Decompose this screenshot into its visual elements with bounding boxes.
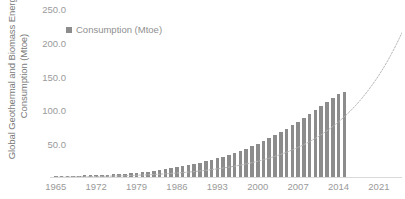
bar-2000 — [256, 144, 260, 177]
bar-1994 — [221, 157, 225, 177]
x-axis-tick-2000: 2000 — [247, 181, 268, 192]
bar-1995 — [227, 155, 231, 177]
bar-1996 — [233, 153, 237, 177]
bar-2011 — [319, 106, 323, 177]
x-axis-tick-1965: 1965 — [45, 181, 66, 192]
bar-2009 — [308, 114, 312, 177]
chart-container: Global Geothermal and Biomass Energy Con… — [0, 0, 405, 199]
chart-legend: Consumption (Mtoe) — [66, 24, 162, 35]
bar-1992 — [210, 160, 214, 177]
x-axis-tick-labels: 196519721979198619932000200720142021 — [50, 181, 402, 195]
bar-2006 — [291, 125, 295, 177]
bar-1999 — [250, 146, 254, 177]
bar-1997 — [239, 151, 243, 177]
bar-2014 — [337, 94, 341, 177]
bar-2013 — [331, 98, 335, 177]
bar-2005 — [285, 129, 289, 177]
bar-1991 — [204, 161, 208, 177]
bar-1984 — [164, 169, 168, 177]
bar-2003 — [273, 135, 277, 177]
x-axis-tick-2021: 2021 — [368, 181, 389, 192]
bar-1985 — [169, 168, 173, 177]
bar-1986 — [175, 167, 179, 177]
x-axis-tick-2014: 2014 — [328, 181, 349, 192]
legend-swatch-consumption — [66, 27, 72, 33]
x-axis-tick-1979: 1979 — [126, 181, 147, 192]
bar-2008 — [302, 118, 306, 177]
x-axis-line — [50, 177, 402, 178]
x-axis-tick-1993: 1993 — [207, 181, 228, 192]
x-axis-tick-1972: 1972 — [86, 181, 107, 192]
bar-1989 — [192, 164, 196, 177]
bar-2012 — [325, 102, 329, 177]
y-axis-title-line-1: Global Geothermal and Biomass Energy — [6, 0, 18, 159]
bar-1983 — [158, 170, 162, 177]
bar-1998 — [244, 149, 248, 177]
legend-label-consumption: Consumption (Mtoe) — [76, 24, 162, 35]
x-axis-tick-1986: 1986 — [166, 181, 187, 192]
bar-2002 — [267, 138, 271, 177]
bar-2001 — [262, 141, 266, 177]
bar-1990 — [198, 163, 202, 177]
bar-1987 — [181, 166, 185, 177]
bar-2010 — [314, 110, 318, 177]
bar-2007 — [296, 122, 300, 177]
bar-2004 — [279, 132, 283, 177]
bar-1988 — [187, 165, 191, 177]
bar-1993 — [216, 158, 220, 177]
bar-2015 — [343, 92, 347, 177]
x-axis-tick-2007: 2007 — [288, 181, 309, 192]
